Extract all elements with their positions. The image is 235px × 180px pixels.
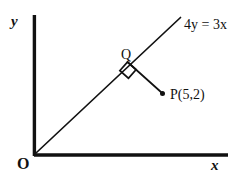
x-axis-label: x: [211, 158, 219, 173]
y-axis-label: y: [11, 14, 18, 29]
right-angle-marker: [120, 62, 136, 78]
point-p-marker: [160, 91, 165, 96]
line-equation-label: 4y = 3x: [184, 18, 227, 32]
point-q-label: Q: [121, 48, 131, 62]
origin-label: O: [17, 156, 29, 172]
geometry-diagram: y x O 4y = 3x Q P(5,2): [0, 0, 235, 180]
line-4y-equals-3x: [36, 18, 181, 154]
point-p-label: P(5,2): [170, 88, 205, 102]
